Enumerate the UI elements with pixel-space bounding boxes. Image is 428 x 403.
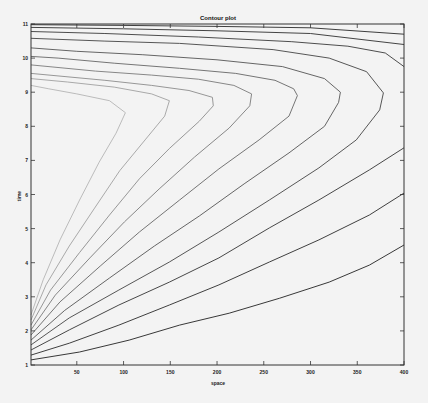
y-tick-label: 7 — [25, 157, 28, 163]
x-tick-label: 400 — [400, 369, 409, 375]
y-tick-label: 10 — [22, 55, 28, 61]
y-tick-label: 2 — [25, 328, 28, 334]
x-tick-label: 300 — [306, 369, 315, 375]
x-tick-label: 200 — [213, 369, 222, 375]
y-tick-label: 3 — [25, 294, 28, 300]
x-tick-label: 100 — [119, 369, 128, 375]
x-tick-label: 50 — [74, 369, 80, 375]
y-tick-label: 1 — [25, 362, 28, 368]
contour-chart: Contour plot 50100150200250300350400 123… — [0, 0, 428, 403]
x-tick-label: 350 — [353, 369, 362, 375]
chart-background — [0, 0, 428, 403]
y-tick-label: 5 — [25, 226, 28, 232]
y-axis-label: time — [16, 191, 22, 202]
x-tick-label: 150 — [166, 369, 175, 375]
x-tick-label: 250 — [260, 369, 269, 375]
y-tick-label: 11 — [23, 21, 29, 27]
chart-title: Contour plot — [200, 15, 236, 21]
x-axis-label: space — [211, 380, 225, 386]
y-tick-label: 8 — [25, 123, 28, 129]
y-tick-label: 4 — [25, 260, 28, 266]
y-tick-label: 6 — [25, 192, 28, 198]
y-tick-label: 9 — [25, 89, 28, 95]
